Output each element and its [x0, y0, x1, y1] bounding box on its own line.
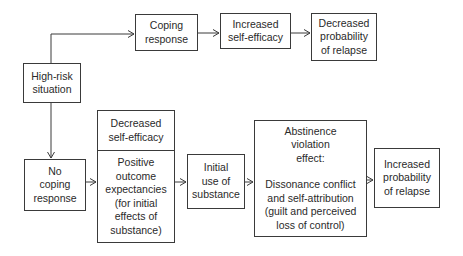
node-initial-use-of-substance: Initial use of substance — [187, 154, 245, 209]
node-self-efficacy-outcome-expectancies: Decreased self-efficacy Positive outcome… — [97, 110, 175, 243]
node-label: Coping response — [145, 19, 188, 46]
node-label: Decreased self-efficacy — [108, 117, 163, 144]
node-section-decreased-self-efficacy: Decreased self-efficacy — [98, 111, 174, 151]
node-section-positive-outcome-expectancies: Positive outcome expectancies (for initi… — [98, 151, 174, 242]
node-label: Increased probability of relapse — [383, 158, 431, 199]
node-coping-response: Coping response — [135, 14, 198, 51]
node-label: Positive outcome expectancies (for initi… — [105, 156, 166, 237]
node-label: Initial use of substance — [192, 161, 240, 202]
node-no-coping-response: No coping response — [24, 159, 86, 211]
node-increased-self-efficacy: Increased self-efficacy — [220, 13, 291, 49]
node-label: Increased self-efficacy — [228, 18, 283, 45]
node-label: No coping response — [33, 165, 76, 206]
node-increased-probability-of-relapse: Increased probability of relapse — [374, 148, 440, 208]
node-decreased-probability-of-relapse: Decreased probability of relapse — [311, 13, 377, 61]
node-high-risk-situation: High-risk situation — [23, 63, 81, 103]
node-label: Decreased probability of relapse — [319, 17, 370, 58]
node-title: Abstinence violation effect: — [285, 125, 337, 166]
node-label: High-risk situation — [31, 70, 72, 97]
node-label: Dissonance conflict and self-attribution… — [265, 178, 357, 232]
node-abstinence-violation-effect: Abstinence violation effect: Dissonance … — [254, 120, 367, 237]
